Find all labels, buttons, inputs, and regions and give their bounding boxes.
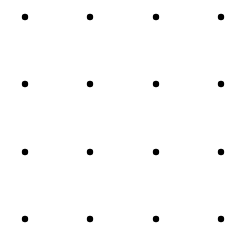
grid-dot-r1-c0 [22, 81, 28, 87]
grid-dot-r0-c0 [22, 14, 28, 20]
grid-dot-r1-c3 [218, 81, 224, 87]
grid-dot-r2-c3 [218, 149, 224, 155]
grid-dot-r0-c3 [218, 14, 224, 20]
grid-dot-r2-c2 [153, 149, 159, 155]
dot-grid [0, 0, 245, 248]
grid-dot-r3-c1 [87, 216, 93, 222]
grid-dot-r2-c1 [87, 149, 93, 155]
grid-dot-r1-c1 [87, 81, 93, 87]
grid-dot-r3-c3 [218, 216, 224, 222]
grid-dot-r1-c2 [153, 81, 159, 87]
grid-dot-r2-c0 [22, 149, 28, 155]
grid-dot-r3-c0 [22, 216, 28, 222]
grid-dot-r0-c1 [87, 14, 93, 20]
grid-dot-r3-c2 [153, 216, 159, 222]
grid-dot-r0-c2 [153, 14, 159, 20]
